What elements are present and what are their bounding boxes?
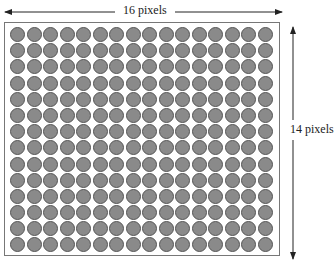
pixel-dot bbox=[126, 108, 141, 123]
pixel-dot bbox=[43, 108, 58, 123]
pixel-dot bbox=[76, 27, 91, 42]
pixel-dot bbox=[142, 140, 157, 155]
pixel-dot bbox=[225, 157, 240, 172]
pixel-dot bbox=[258, 59, 273, 74]
pixel-dot bbox=[43, 124, 58, 139]
pixel-dot bbox=[142, 43, 157, 58]
pixel-dot bbox=[76, 173, 91, 188]
pixel-dot bbox=[76, 140, 91, 155]
pixel-dot bbox=[27, 237, 42, 252]
pixel-dot bbox=[225, 27, 240, 42]
pixel-dot bbox=[60, 108, 75, 123]
pixel-dot bbox=[27, 76, 42, 91]
pixel-dot bbox=[142, 92, 157, 107]
pixel-dot bbox=[43, 92, 58, 107]
pixel-dot bbox=[241, 189, 256, 204]
pixel-dot bbox=[241, 108, 256, 123]
pixel-dot bbox=[258, 124, 273, 139]
pixel-dot bbox=[27, 189, 42, 204]
pixel-dot bbox=[93, 76, 108, 91]
pixel-dot bbox=[27, 157, 42, 172]
pixel-dot bbox=[208, 43, 223, 58]
pixel-dot bbox=[175, 237, 190, 252]
pixel-dot bbox=[109, 92, 124, 107]
pixel-dot bbox=[10, 108, 25, 123]
pixel-dot bbox=[258, 157, 273, 172]
pixel-dot bbox=[258, 189, 273, 204]
pixel-dot bbox=[109, 76, 124, 91]
pixel-dot bbox=[225, 173, 240, 188]
pixel-dot bbox=[93, 43, 108, 58]
pixel-dot bbox=[192, 221, 207, 236]
pixel-dot bbox=[93, 157, 108, 172]
pixel-dot bbox=[142, 157, 157, 172]
pixel-dot bbox=[159, 108, 174, 123]
pixel-dot bbox=[27, 205, 42, 220]
pixel-dot bbox=[27, 27, 42, 42]
pixel-dot bbox=[159, 157, 174, 172]
pixel-dot bbox=[175, 76, 190, 91]
pixel-dot bbox=[241, 221, 256, 236]
pixel-dot bbox=[258, 205, 273, 220]
pixel-dot bbox=[126, 27, 141, 42]
pixel-dot bbox=[60, 189, 75, 204]
pixel-dot bbox=[126, 205, 141, 220]
pixel-dot bbox=[225, 43, 240, 58]
pixel-dot bbox=[126, 173, 141, 188]
pixel-dot bbox=[93, 205, 108, 220]
pixel-dot bbox=[142, 59, 157, 74]
pixel-dot bbox=[60, 43, 75, 58]
pixel-dot bbox=[175, 59, 190, 74]
pixel-dot bbox=[192, 76, 207, 91]
pixel-dot bbox=[208, 157, 223, 172]
pixel-dot bbox=[225, 59, 240, 74]
pixel-dot bbox=[60, 173, 75, 188]
pixel-dot bbox=[10, 27, 25, 42]
pixel-dot bbox=[27, 43, 42, 58]
pixel-dot bbox=[109, 157, 124, 172]
pixel-dot bbox=[93, 92, 108, 107]
pixel-dot bbox=[192, 205, 207, 220]
pixel-dot bbox=[225, 140, 240, 155]
pixel-dot bbox=[109, 205, 124, 220]
pixel-dot bbox=[60, 76, 75, 91]
pixel-dot bbox=[109, 124, 124, 139]
pixel-dot bbox=[126, 140, 141, 155]
pixel-dot bbox=[126, 76, 141, 91]
pixel-dot bbox=[27, 140, 42, 155]
pixel-dot bbox=[159, 189, 174, 204]
pixel-dot bbox=[208, 205, 223, 220]
pixel-dot bbox=[43, 43, 58, 58]
pixel-dot bbox=[208, 92, 223, 107]
pixel-dot bbox=[241, 27, 256, 42]
pixel-dot bbox=[159, 27, 174, 42]
pixel-dot bbox=[225, 221, 240, 236]
pixel-dot bbox=[258, 108, 273, 123]
pixel-dot bbox=[159, 205, 174, 220]
pixel-dot bbox=[175, 124, 190, 139]
pixel-dot bbox=[76, 237, 91, 252]
pixel-dot bbox=[192, 140, 207, 155]
pixel-dot bbox=[10, 237, 25, 252]
pixel-dot bbox=[27, 124, 42, 139]
pixel-dot bbox=[43, 205, 58, 220]
pixel-dot bbox=[76, 59, 91, 74]
pixel-dot bbox=[27, 92, 42, 107]
pixel-dot bbox=[109, 173, 124, 188]
pixel-dot bbox=[27, 108, 42, 123]
pixel-dot bbox=[43, 76, 58, 91]
pixel-dot bbox=[60, 205, 75, 220]
pixel-dot bbox=[109, 43, 124, 58]
pixel-dot bbox=[175, 205, 190, 220]
pixel-dot bbox=[109, 27, 124, 42]
pixel-dot bbox=[241, 173, 256, 188]
pixel-dot bbox=[109, 140, 124, 155]
pixel-dot bbox=[142, 76, 157, 91]
pixel-dot bbox=[241, 205, 256, 220]
pixel-dot bbox=[225, 237, 240, 252]
pixel-dot bbox=[126, 43, 141, 58]
pixel-dot bbox=[93, 124, 108, 139]
pixel-dot bbox=[10, 221, 25, 236]
pixel-dot bbox=[126, 59, 141, 74]
pixel-dot bbox=[159, 124, 174, 139]
